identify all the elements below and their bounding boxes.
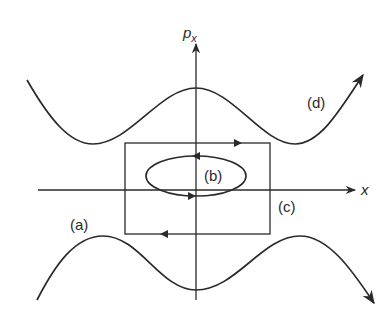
label-d: (d) [307, 94, 325, 111]
arrow-right-icon [234, 139, 242, 147]
trajectory-a-curve [37, 236, 374, 303]
x-axis-label: x [360, 181, 369, 198]
label-a: (a) [70, 216, 88, 233]
arrow-left-icon [160, 230, 168, 238]
label-c: (c) [278, 198, 296, 215]
px-axis-label: px [182, 24, 197, 44]
phase-space-diagram: px x (b) (c) (d) (a) [0, 0, 392, 322]
arrow-right-icon [188, 192, 196, 200]
label-b: (b) [204, 167, 222, 184]
